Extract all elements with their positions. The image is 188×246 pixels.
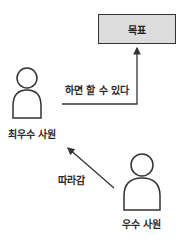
good-performer-label: 우수 사원 (122, 216, 161, 231)
edge-label-follows: 따라감 (58, 172, 85, 187)
diagram-canvas (0, 0, 188, 246)
person-icon-good-performer (124, 154, 160, 210)
top-performer-label: 최우수 사원 (8, 126, 56, 141)
edge-label-can-do: 하면 할 수 있다 (65, 82, 129, 97)
person-icon-top-performer (13, 68, 41, 118)
